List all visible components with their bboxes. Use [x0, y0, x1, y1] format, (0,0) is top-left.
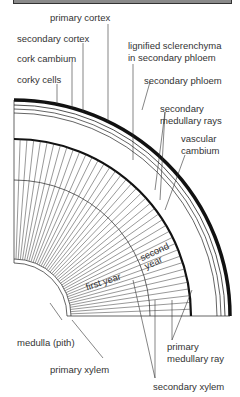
label-lignified-sclerenchyma: lignified sclerenchyma: [128, 40, 221, 51]
label-medulla-pith: medulla (pith): [17, 337, 75, 348]
label-secondary-cortex: secondary cortex: [17, 33, 89, 44]
label-primary-xylem: primary xylem: [50, 364, 109, 375]
label-primary-cortex: primary cortex: [50, 12, 110, 23]
label-vascular-cambium-1: vascular: [181, 133, 216, 144]
label-secondary-xylem: secondary xylem: [153, 381, 224, 392]
label-in-secondary-phloem: in secondary phloem: [128, 52, 216, 63]
label-cork-cambium: cork cambium: [17, 53, 76, 64]
label-corky-cells: corky cells: [17, 74, 61, 85]
label-secondary-medullary-rays-2: medullary rays: [160, 115, 222, 126]
label-secondary-phloem: secondary phloem: [144, 75, 222, 86]
label-primary-medullary-ray-1: primary: [167, 341, 199, 352]
label-secondary-medullary-rays-1: secondary: [160, 103, 204, 114]
label-primary-medullary-ray-2: medullary ray: [167, 353, 224, 364]
label-vascular-cambium-2: cambium: [181, 145, 220, 156]
